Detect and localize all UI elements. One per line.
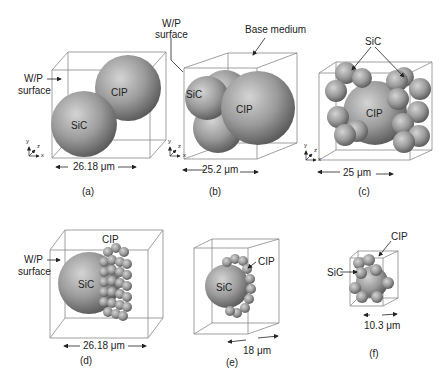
- sic-label-f: SiC: [327, 267, 343, 278]
- axis-z-a: z: [37, 143, 40, 149]
- cip-label-c: CIP: [366, 108, 383, 119]
- wp-surface-label-b-2: surface: [155, 29, 188, 40]
- sic-label-a: SiC: [71, 120, 87, 131]
- sic-label-d: SiC: [78, 279, 94, 290]
- axis-y-a: y: [26, 138, 29, 144]
- caption-d: (d): [71, 355, 101, 366]
- wp-surface-label-d-2: surface: [18, 266, 51, 277]
- cip-label-d: CIP: [102, 234, 119, 245]
- base-medium-label: Base medium: [245, 24, 306, 35]
- sic-label-b: SiC: [186, 89, 202, 100]
- sic-label-e: SiC: [216, 282, 232, 293]
- dimension-f: 10.3 μm: [364, 320, 400, 331]
- axis-z-c: z: [314, 147, 317, 153]
- axis-y-c: y: [304, 142, 307, 148]
- axis-x-c: x: [318, 156, 321, 162]
- wp-surface-label-b: W/P: [162, 18, 181, 29]
- dimension-c: 25 μm: [343, 167, 371, 178]
- cip-label-e: CIP: [258, 256, 275, 267]
- dimension-e: 18 μm: [243, 345, 271, 356]
- dimension-a: 26.18 μm: [73, 161, 115, 172]
- cip-cluster-d: [99, 243, 132, 321]
- cip-label-b: CIP: [236, 104, 253, 115]
- axis-x-b: x: [183, 152, 186, 158]
- axis-y-b: y: [168, 138, 171, 144]
- axis-x-a: x: [41, 152, 44, 158]
- cip-label-a: CIP: [111, 87, 128, 98]
- dimension-b: 25.2 μm: [202, 164, 238, 175]
- wp-surface-label-a-2: surface: [18, 85, 51, 96]
- caption-b: (b): [200, 186, 230, 197]
- caption-f: (f): [359, 348, 389, 359]
- caption-c: (c): [349, 186, 379, 197]
- wp-surface-label-a: W/P: [24, 73, 43, 84]
- cip-sphere-b: [221, 71, 295, 145]
- sic-label-c: SiC: [365, 36, 381, 47]
- dimension-d: 26.18 μm: [83, 340, 125, 351]
- caption-a: (a): [73, 186, 103, 197]
- caption-e: (e): [217, 357, 247, 368]
- cip-label-f: CIP: [391, 231, 408, 242]
- axis-z-b: z: [178, 143, 181, 149]
- wp-surface-label-d: W/P: [24, 254, 43, 265]
